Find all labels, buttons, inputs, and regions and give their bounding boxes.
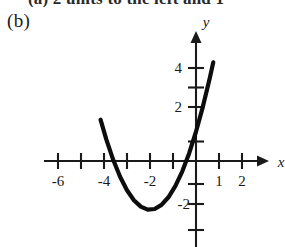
y-tick-label--2: -2 (178, 196, 191, 212)
x-tick-label--4: -4 (98, 173, 111, 189)
y-tick-label-4: 4 (175, 60, 183, 76)
figure-panel: (a) 2 units to the left and 1 (b) (0, 0, 285, 247)
parabola-graph: -6 -4 -2 1 2 4 2 -2 y x (0, 0, 285, 247)
x-tick-label--2: -2 (144, 173, 157, 189)
x-tick-label--6: -6 (52, 173, 65, 189)
x-tick-label-1: 1 (215, 173, 223, 189)
y-tick-label-2: 2 (175, 99, 183, 115)
x-axis-label: x (277, 154, 285, 170)
x-axis-arrow-icon (257, 156, 269, 167)
x-tick-label-2: 2 (238, 173, 246, 189)
y-axis-arrow-icon (191, 31, 202, 43)
y-axis-label: y (201, 14, 210, 30)
